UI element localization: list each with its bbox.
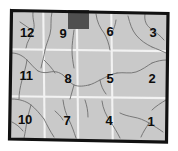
map-figure: 129631185210741 [0, 0, 178, 151]
map-cell-label-8: 8 [65, 72, 72, 85]
map-cell-label-2: 2 [149, 72, 156, 85]
map-cell-label-5: 5 [107, 72, 114, 85]
map-cell-label-10: 10 [18, 113, 32, 126]
map-cell-label-11: 11 [19, 69, 32, 82]
map-cell-label-12: 12 [20, 26, 34, 39]
map-cell-label-4: 4 [106, 114, 113, 127]
map-cell-label-6: 6 [107, 25, 114, 38]
map-cell-label-3: 3 [150, 26, 157, 39]
map-cell-label-7: 7 [64, 114, 71, 127]
map-cell-label-9: 9 [60, 27, 67, 40]
map-cell-label-1: 1 [148, 115, 155, 128]
